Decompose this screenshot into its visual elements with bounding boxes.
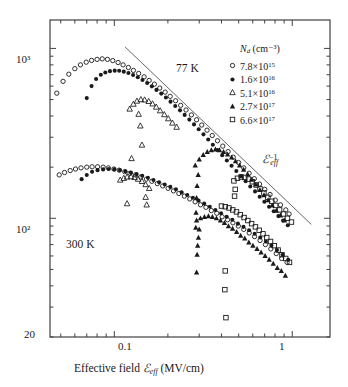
annotation-slope-law: ℰ−1eff bbox=[262, 152, 278, 167]
legend: Nd (cm⁻³) 7.8×10151.6×10165.1×10162.7×10… bbox=[226, 42, 280, 126]
y-tick-label-1e2: 10² bbox=[16, 223, 30, 235]
x-axis-title: Effective field ℰeff (MV/cm) bbox=[74, 361, 204, 376]
series-open-triangle bbox=[127, 97, 179, 161]
legend-rows: 7.8×10151.6×10165.1×10162.7×10176.6×1017 bbox=[226, 59, 280, 126]
y-tick-label-1e3: 10³ bbox=[16, 53, 30, 65]
legend-title-units: (cm⁻³) bbox=[250, 43, 280, 54]
filled-triangle-icon bbox=[226, 99, 240, 112]
slope-sub: eff bbox=[270, 158, 278, 167]
y-tick-label-20: 20 bbox=[24, 328, 35, 340]
x-axis-title-symbol: ℰ bbox=[143, 362, 150, 374]
open-circle-icon bbox=[226, 59, 240, 72]
figure-panel: 10³ 10² 20 0.1 1 Effective field ℰeff (M… bbox=[0, 0, 348, 387]
guide-line-slope-minus-one bbox=[125, 47, 311, 224]
legend-title: Nd (cm⁻³) bbox=[240, 42, 280, 58]
open-square-icon bbox=[226, 112, 240, 125]
legend-title-symbol: N bbox=[240, 43, 247, 54]
legend-item-4: 6.6×1017 bbox=[226, 112, 280, 125]
series-filled-triangle bbox=[194, 213, 288, 277]
series-open-square bbox=[219, 204, 292, 320]
filled-circle-icon bbox=[226, 72, 240, 85]
x-axis-title-units: (MV/cm) bbox=[158, 362, 204, 374]
annotation-300k: 300 K bbox=[66, 238, 94, 250]
open-triangle-icon bbox=[226, 86, 240, 99]
x-tick-label-1: 1 bbox=[279, 340, 285, 352]
legend-item-label-4: 6.6×1017 bbox=[240, 112, 275, 127]
legend-item-2: 5.1×1016 bbox=[226, 86, 280, 99]
annotation-77k: 77 K bbox=[176, 62, 199, 74]
x-axis-title-prefix: Effective field bbox=[74, 362, 143, 374]
plot-canvas bbox=[0, 0, 348, 387]
legend-item-3: 2.7×1017 bbox=[226, 99, 280, 112]
x-axis-title-sub: eff bbox=[150, 367, 158, 376]
legend-item-0: 7.8×1015 bbox=[226, 59, 280, 72]
legend-item-1: 1.6×1016 bbox=[226, 72, 280, 85]
slope-symbol: ℰ bbox=[262, 153, 269, 165]
series-filled-circle bbox=[80, 167, 291, 262]
x-tick-label-0.1: 0.1 bbox=[118, 340, 132, 352]
